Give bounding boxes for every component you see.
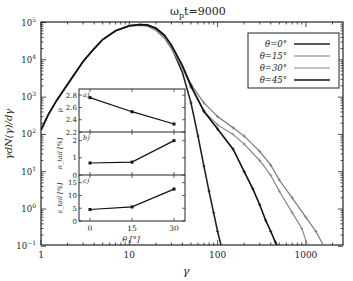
legend-label: θ=0° xyxy=(265,39,287,49)
y-tick-label: 10−1 xyxy=(16,239,36,251)
legend-label: θ=45° xyxy=(260,75,287,85)
y-tick-label: 102 xyxy=(21,127,36,139)
inset-y-tick: 15 xyxy=(68,179,77,187)
inset-x-label: θ [°] xyxy=(122,235,140,244)
inset-y-tick: 1 xyxy=(73,154,77,162)
x-tick-label: 1000 xyxy=(294,250,317,260)
inset-y-tick: 2.4 xyxy=(66,116,78,124)
spectrum-chart: ωpt=9000 1101001000 10510410310210110010… xyxy=(0,0,353,281)
inset-y-label: p xyxy=(56,108,64,113)
chart-title: ωpt=9000 xyxy=(170,5,226,20)
inset-y-tick: 5 xyxy=(73,205,77,213)
panel-label: c) xyxy=(83,177,90,185)
inset-y-label: ε_tail [%] xyxy=(56,182,64,213)
legend-label: θ=15° xyxy=(260,51,287,61)
inset-x-tick: 30 xyxy=(169,224,179,233)
x-axis-label: γ xyxy=(183,265,190,278)
inset-y-label: n_tail [%] xyxy=(56,137,64,169)
inset-y-tick: 2.6 xyxy=(66,104,78,112)
y-tick-label: 100 xyxy=(21,202,36,214)
x-tick-label: 1 xyxy=(38,250,44,260)
inset-x-tick: 0 xyxy=(88,224,93,233)
inset-y-tick: 2.2 xyxy=(66,129,77,137)
y-tick-label: 103 xyxy=(21,90,36,102)
x-tick-label: 10 xyxy=(124,250,136,260)
legend-label: θ=30° xyxy=(260,63,287,73)
y-tick-label: 101 xyxy=(21,165,36,177)
x-tick-label: 100 xyxy=(209,250,226,260)
inset-panels: 2.22.42.62.8a)p012b)n_tail [%]051015c)ε_… xyxy=(56,89,185,244)
inset-y-tick: 2.8 xyxy=(66,92,77,100)
inset-y-tick: 0 xyxy=(73,218,77,226)
inset-x-tick: 15 xyxy=(127,224,137,233)
inset-y-tick: 10 xyxy=(68,192,77,200)
panel-label: b) xyxy=(83,134,90,142)
panel-label: a) xyxy=(83,91,90,99)
legend: θ=0°θ=15°θ=30°θ=45° xyxy=(248,33,339,88)
inset-y-tick: 2 xyxy=(73,137,77,145)
y-axis-label: γdN(γ)/dγ xyxy=(3,109,14,160)
y-tick-label: 104 xyxy=(21,53,36,65)
y-tick-label: 105 xyxy=(21,16,36,28)
